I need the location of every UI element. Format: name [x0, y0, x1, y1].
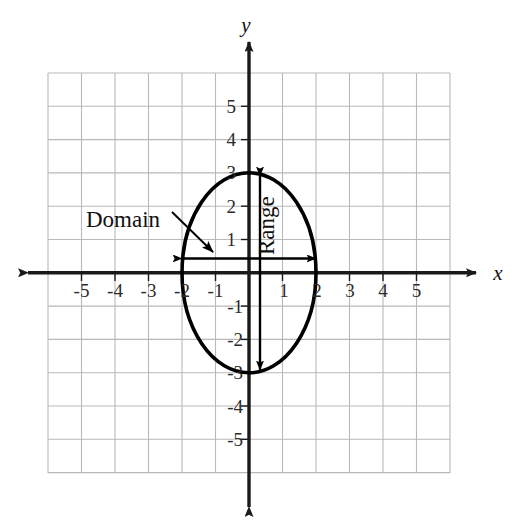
coordinate-plane-svg: -5 -4 -3 -2 -1 1 2 3 4 5 5 4 3 2 1 -1 -2…	[0, 0, 520, 527]
range-label: Range	[254, 196, 279, 255]
domain-label: Domain	[86, 207, 161, 232]
y-tick-label: 1	[227, 229, 237, 250]
y-tick-label: 5	[227, 96, 237, 117]
x-tick-label: -1	[208, 280, 224, 301]
y-tick-label: 3	[227, 162, 237, 183]
x-tick-label: 4	[378, 280, 388, 301]
y-tick-label: -3	[227, 362, 243, 383]
y-tick-label: -2	[227, 329, 243, 350]
x-tick-label: -2	[174, 280, 190, 301]
y-tick-label: -5	[227, 429, 243, 450]
x-tick-label: 3	[345, 280, 355, 301]
x-axis-label: x	[492, 261, 503, 285]
x-tick-label: 2	[312, 280, 322, 301]
y-axis-label: y	[239, 13, 251, 37]
x-tick-label: -5	[74, 280, 90, 301]
x-tick-label: -4	[107, 280, 123, 301]
y-tick-label: -1	[227, 296, 243, 317]
y-tick-label: 4	[227, 129, 237, 150]
x-tick-label: 5	[412, 280, 422, 301]
y-tick-label: 2	[227, 196, 237, 217]
x-tick-label: 1	[279, 280, 289, 301]
graph-figure: -5 -4 -3 -2 -1 1 2 3 4 5 5 4 3 2 1 -1 -2…	[0, 0, 520, 527]
y-tick-label: -4	[227, 396, 243, 417]
x-tick-label: -3	[141, 280, 157, 301]
